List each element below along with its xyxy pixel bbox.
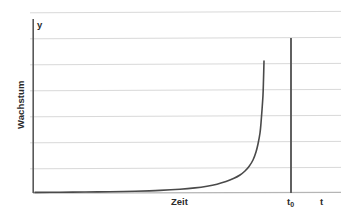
gridlines-group <box>30 11 341 168</box>
chart-canvas <box>0 0 349 219</box>
y-axis-title-wachstum: Wachstum <box>16 67 26 143</box>
y-axis-symbol-label: y <box>37 20 42 30</box>
gridline-4 <box>30 89 341 90</box>
growth-chart-figure: y Wachstum Zeit t0 t <box>0 0 349 219</box>
x-axis-symbol-label: t <box>320 197 323 207</box>
gridline-6 <box>30 141 341 142</box>
threshold-label-t0: t0 <box>287 197 294 207</box>
gridline-5 <box>30 115 341 116</box>
exponential-growth-curve <box>35 61 264 192</box>
gridline-3 <box>30 63 341 64</box>
threshold-label-subscript: 0 <box>290 201 294 208</box>
gridline-7 <box>30 167 341 168</box>
gridline-2 <box>30 37 341 38</box>
gridline-1 <box>30 11 341 12</box>
x-axis-title-zeit: Zeit <box>171 197 188 207</box>
